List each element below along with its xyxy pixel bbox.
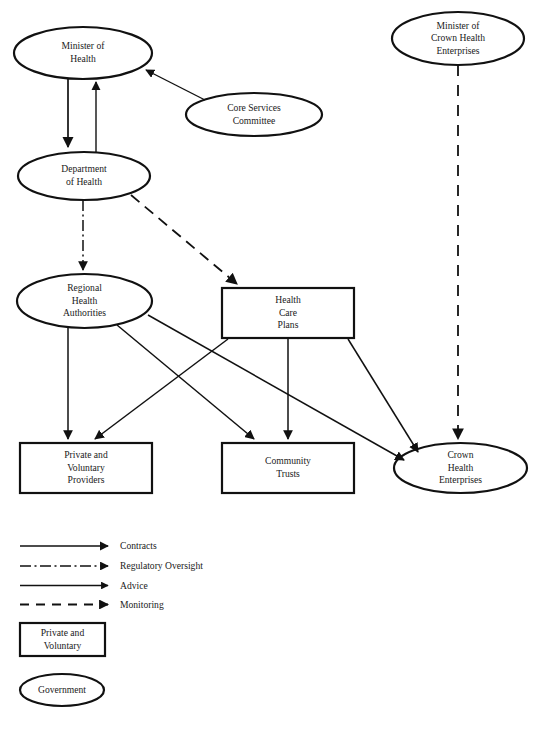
- legend-shape-private-voluntary: [20, 623, 105, 656]
- node-health-care-plans[interactable]: [222, 288, 354, 338]
- edge-department-to-health-care-plans-monitoring: [131, 195, 237, 284]
- diagram-canvas: [0, 0, 545, 734]
- edge-core-services-to-minister-advice: [146, 70, 205, 100]
- node-minister-of-crown-health-enterprises[interactable]: [392, 12, 524, 65]
- legend-label-contracts: Contracts: [120, 540, 157, 552]
- edge-health-care-plans-to-private-voluntary-contracts: [95, 339, 228, 439]
- node-core-services-committee[interactable]: [186, 93, 322, 136]
- legend-label-monitoring: Monitoring: [120, 599, 164, 611]
- node-community-trusts[interactable]: [222, 443, 354, 493]
- edge-rha-to-community-trusts-contracts: [117, 325, 254, 439]
- node-private-voluntary-providers[interactable]: [20, 443, 152, 493]
- edge-rha-to-crown-health-enterprises-contracts: [148, 315, 404, 460]
- legend-label-regulatory-oversight: Regulatory Oversight: [120, 560, 203, 572]
- legend-shape-government: [20, 674, 104, 706]
- node-crown-health-enterprises[interactable]: [394, 443, 527, 493]
- node-department-of-health[interactable]: [18, 152, 150, 200]
- node-minister-of-health[interactable]: [14, 27, 152, 79]
- legend-label-advice: Advice: [120, 580, 148, 592]
- node-regional-health-authorities[interactable]: [17, 274, 152, 328]
